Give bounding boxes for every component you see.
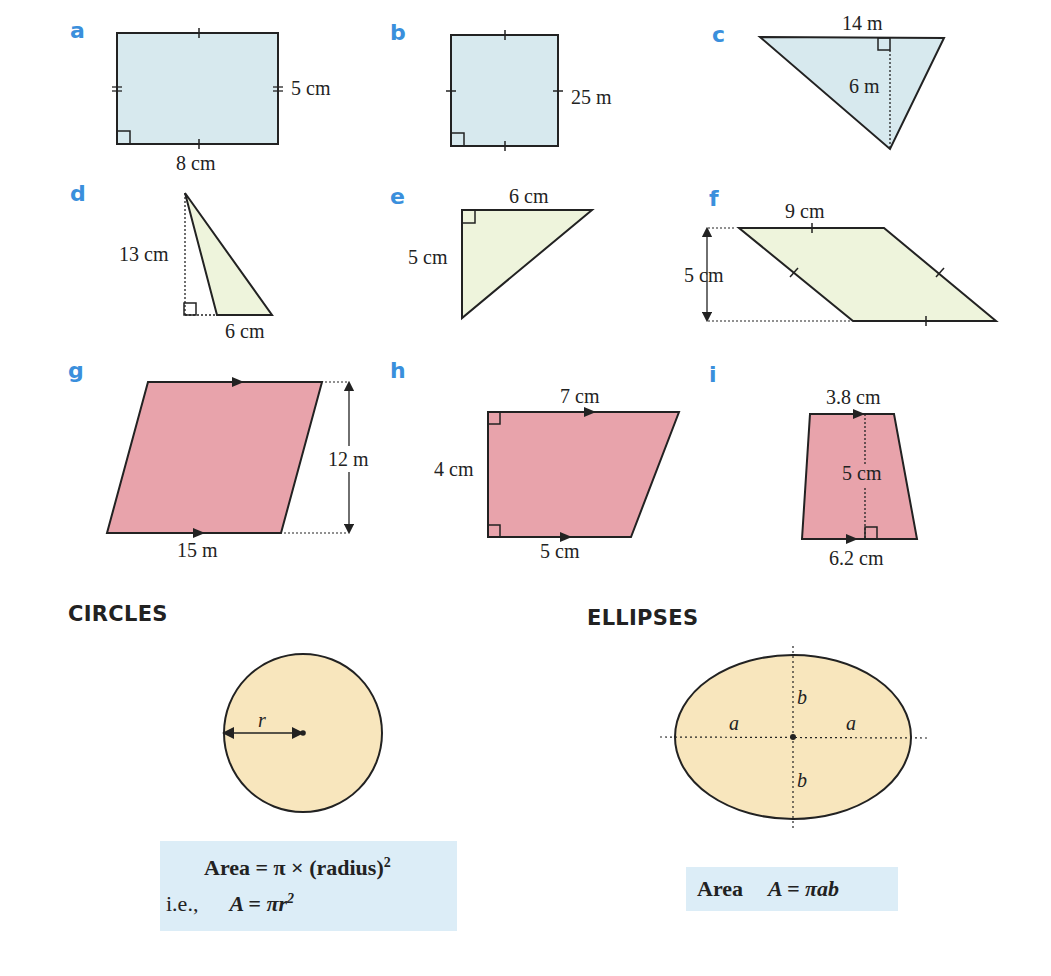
shape-g-parallelogram bbox=[107, 377, 349, 538]
area-expr: = π × (radius) bbox=[250, 855, 384, 880]
area-word: Area bbox=[697, 876, 743, 901]
ellipses-heading: ELLIPSES bbox=[587, 606, 698, 630]
ellipse-formula-box: Area A = πab bbox=[686, 867, 898, 911]
dim-c-base: 14 m bbox=[842, 12, 883, 34]
dim-i-bottom: 6.2 cm bbox=[829, 547, 884, 569]
area-word: Area bbox=[204, 855, 250, 880]
dim-f-height: 5 cm bbox=[684, 264, 724, 286]
circle-formula-box: Area = π × (radius)2 i.e., A = πr2 bbox=[160, 841, 457, 931]
ellipse-a-left: a bbox=[729, 712, 739, 734]
shape-b-square bbox=[446, 30, 563, 151]
dim-g-base: 15 m bbox=[177, 539, 218, 561]
dim-a-height: 5 cm bbox=[291, 77, 331, 99]
ellipse-a-right: a bbox=[846, 712, 856, 734]
circle-formula-line1: Area = π × (radius)2 bbox=[204, 855, 391, 881]
dim-d-height: 13 cm bbox=[119, 243, 169, 265]
dim-g-height: 12 m bbox=[328, 448, 369, 470]
ellipse-b-top: b bbox=[797, 686, 807, 708]
shape-d-triangle bbox=[184, 193, 272, 315]
circle-figure bbox=[224, 654, 382, 812]
dim-h-height: 4 cm bbox=[434, 458, 474, 480]
dim-i-height: 5 cm bbox=[842, 462, 882, 484]
dim-h-bottom: 5 cm bbox=[540, 540, 580, 562]
dim-a-width: 8 cm bbox=[176, 152, 216, 174]
dim-b-side: 25 m bbox=[571, 86, 612, 108]
circle-formula-line2: i.e., A = πr2 bbox=[166, 891, 294, 917]
dim-d-base: 6 cm bbox=[225, 320, 265, 342]
exponent: 2 bbox=[287, 891, 294, 906]
dim-i-top: 3.8 cm bbox=[826, 386, 881, 408]
shape-f-parallelogram bbox=[707, 223, 996, 326]
ie-prefix: i.e., bbox=[166, 891, 198, 916]
area-symbolic: A = πr bbox=[229, 891, 287, 916]
dim-c-height: 6 m bbox=[849, 75, 880, 97]
dim-h-top: 7 cm bbox=[560, 385, 600, 407]
exponent: 2 bbox=[384, 855, 391, 870]
circles-heading: CIRCLES bbox=[68, 602, 168, 626]
geometry-figures: 5 cm 8 cm 25 m 14 m 6 m 13 cm 6 cm 6 cm … bbox=[0, 0, 1051, 976]
ellipse-b-bottom: b bbox=[797, 769, 807, 791]
shape-a-rectangle bbox=[112, 28, 283, 149]
dim-f-base: 9 cm bbox=[785, 200, 825, 222]
shape-h-trapezium bbox=[488, 407, 679, 542]
radius-label: r bbox=[258, 709, 266, 731]
dim-e-top: 6 cm bbox=[509, 185, 549, 207]
ellipse-area-expr: A = πab bbox=[768, 876, 839, 901]
shape-e-triangle bbox=[462, 210, 592, 318]
dim-e-side: 5 cm bbox=[408, 246, 448, 268]
ellipse-figure bbox=[660, 646, 928, 830]
